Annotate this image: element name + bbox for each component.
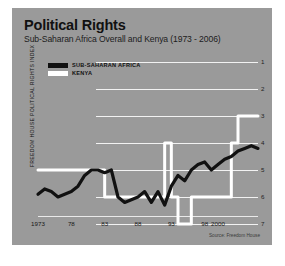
series-line [38,116,258,224]
chart-panel: Political Rights Sub-Saharan Africa Over… [12,8,272,245]
plot-area: 1234567 197378838893982000 [12,8,272,245]
series-lines [12,8,272,245]
source-note: Source: Freedom House [209,233,260,238]
